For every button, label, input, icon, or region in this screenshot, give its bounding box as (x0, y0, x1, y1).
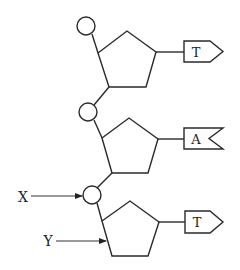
phosphate-circle (83, 186, 101, 204)
backbone-bond (94, 120, 102, 138)
nucleotide-2: A (79, 103, 223, 173)
backbone-bond (94, 87, 109, 105)
base-t-tag (185, 211, 223, 233)
sugar-pentagon (98, 31, 156, 87)
pointer-y: Y (42, 233, 106, 249)
phosphate-circle (79, 103, 97, 121)
backbone-bond (97, 203, 102, 221)
backbone-bond (97, 173, 112, 188)
sugar-pentagon (102, 118, 158, 173)
base-a-tag (184, 128, 223, 149)
backbone-bond (92, 34, 98, 53)
pointer-label: X (18, 189, 28, 205)
phosphate-circle (77, 17, 95, 35)
pointer-x: X (18, 189, 82, 205)
sugar-pentagon (102, 201, 159, 256)
nucleotide-1: T (77, 17, 223, 87)
base-label: T (193, 215, 202, 230)
base-label: A (190, 132, 201, 147)
dna-strand-diagram: TAT XY (0, 0, 240, 270)
nucleotide-3: T (83, 186, 223, 256)
base-t-tag (184, 41, 223, 62)
base-label: T (192, 45, 201, 60)
nucleotides: TAT (77, 17, 223, 256)
pointer-label: Y (42, 233, 53, 249)
